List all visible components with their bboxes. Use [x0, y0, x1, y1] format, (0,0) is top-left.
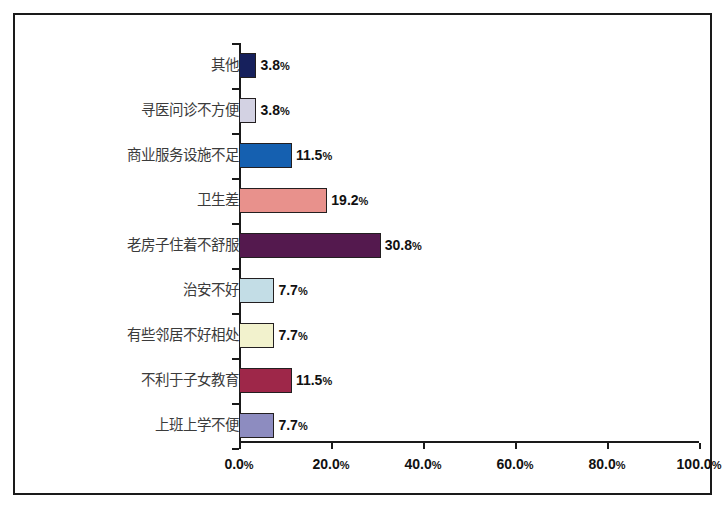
bar-value-label-6: 7.7% [274, 323, 307, 348]
category-label-8: 上班上学不便 [155, 403, 239, 448]
x-tick-2 [423, 443, 425, 449]
x-tick-3 [515, 443, 517, 449]
bar-wrapper: 3.8% [239, 88, 714, 133]
category-label-0: 其他 [211, 43, 239, 88]
category-label-7: 不利于子女教育 [141, 358, 239, 403]
category-label-1: 寻医问诊不方便 [141, 88, 239, 133]
y-tick-5 [232, 268, 239, 270]
bar-row: 老房子住着不舒服30.8% [15, 223, 714, 268]
bar-0[interactable] [239, 53, 256, 78]
bar-wrapper: 11.5% [239, 358, 714, 403]
chart-frame: 其他3.8%寻医问诊不方便3.8%商业服务设施不足11.5%卫生差19.2%老房… [13, 13, 712, 495]
x-tick-4 [607, 443, 609, 449]
bar-wrapper: 11.5% [239, 133, 714, 178]
y-tick-4 [232, 223, 239, 225]
bar-wrapper: 30.8% [239, 223, 714, 268]
bar-wrapper: 7.7% [239, 313, 714, 358]
bar-row: 不利于子女教育11.5% [15, 358, 714, 403]
bar-3[interactable] [239, 188, 327, 213]
bar-value-label-2: 11.5% [292, 143, 332, 168]
bar-5[interactable] [239, 278, 274, 303]
bar-2[interactable] [239, 143, 292, 168]
y-tick-end [232, 448, 239, 450]
bar-4[interactable] [239, 233, 381, 258]
y-tick-0 [232, 43, 239, 45]
bar-value-label-8: 7.7% [274, 413, 307, 438]
bar-row: 其他3.8% [15, 43, 714, 88]
bar-1[interactable] [239, 98, 256, 123]
y-tick-3 [232, 178, 239, 180]
category-label-3: 卫生差 [197, 178, 239, 223]
bar-wrapper: 3.8% [239, 43, 714, 88]
bar-6[interactable] [239, 323, 274, 348]
category-label-6: 有些邻居不好相处 [127, 313, 239, 358]
x-tick-label-0: 0.0% [194, 456, 284, 472]
x-tick-label-1: 20.0% [286, 456, 376, 472]
category-label-5: 治安不好 [183, 268, 239, 313]
category-label-2: 商业服务设施不足 [127, 133, 239, 178]
bar-row: 上班上学不便7.7% [15, 403, 714, 448]
x-tick-label-4: 80.0% [562, 456, 652, 472]
y-tick-7 [232, 358, 239, 360]
chart-plot-area: 其他3.8%寻医问诊不方便3.8%商业服务设施不足11.5%卫生差19.2%老房… [15, 15, 714, 497]
bar-value-label-1: 3.8% [256, 98, 289, 123]
x-tick-label-3: 60.0% [470, 456, 560, 472]
bar-row: 治安不好7.7% [15, 268, 714, 313]
x-tick-label-5: 100.0% [654, 456, 728, 472]
x-tick-5 [699, 443, 701, 449]
y-tick-8 [232, 403, 239, 405]
category-label-4: 老房子住着不舒服 [127, 223, 239, 268]
bar-8[interactable] [239, 413, 274, 438]
bar-wrapper: 7.7% [239, 268, 714, 313]
bar-value-label-5: 7.7% [274, 278, 307, 303]
x-tick-label-2: 40.0% [378, 456, 468, 472]
bar-row: 寻医问诊不方便3.8% [15, 88, 714, 133]
x-tick-0 [239, 443, 241, 449]
bar-row: 有些邻居不好相处7.7% [15, 313, 714, 358]
y-tick-6 [232, 313, 239, 315]
bar-value-label-3: 19.2% [327, 188, 368, 213]
bar-row: 商业服务设施不足11.5% [15, 133, 714, 178]
y-tick-2 [232, 133, 239, 135]
bar-row: 卫生差19.2% [15, 178, 714, 223]
bar-wrapper: 19.2% [239, 178, 714, 223]
bar-wrapper: 7.7% [239, 403, 714, 448]
bar-value-label-0: 3.8% [256, 53, 289, 78]
bar-7[interactable] [239, 368, 292, 393]
bar-value-label-7: 11.5% [292, 368, 332, 393]
bar-value-label-4: 30.8% [381, 233, 422, 258]
x-tick-1 [331, 443, 333, 449]
y-tick-1 [232, 88, 239, 90]
